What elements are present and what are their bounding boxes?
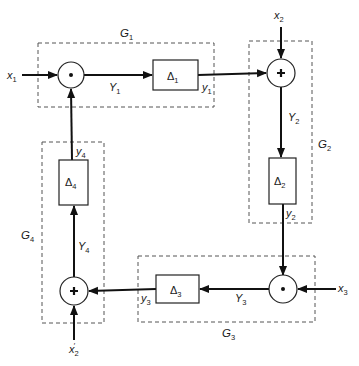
edge-d4-n1: [71, 89, 72, 160]
input-x2-prime-label: x2′: [68, 341, 79, 358]
signal-Y1-label: Y1: [109, 81, 121, 96]
input-x3-label: x3: [337, 282, 348, 297]
group-g2-label: G2: [318, 138, 331, 153]
block-delta-1: [153, 60, 198, 90]
block-diagram: G1 G2 G3 G4 Δ1 Δ2 Δ3 Δ4 x1 x2 x3 x2′ Y1: [0, 0, 359, 366]
dot-icon: [281, 287, 285, 291]
group-g1-label: G1: [120, 27, 133, 42]
dot-icon: [69, 73, 73, 77]
signal-Y2-label: Y2: [288, 111, 300, 126]
signal-y2-label: y2: [285, 207, 296, 222]
signal-y3-label: y3: [140, 292, 151, 307]
group-g4-label: G4: [21, 229, 34, 244]
edge-d3-n4: [89, 289, 156, 291]
edge-d1-n2: [198, 73, 266, 75]
input-x1-label: x1: [6, 69, 17, 84]
signal-Y4-label: Y4: [78, 240, 90, 255]
group-g3-label: G3: [222, 327, 235, 342]
input-x2-label: x2: [273, 9, 284, 24]
signal-y4-label: y4: [75, 145, 86, 160]
signal-y1-label: y1: [201, 81, 212, 96]
signal-Y3-label: Y3: [235, 292, 247, 307]
